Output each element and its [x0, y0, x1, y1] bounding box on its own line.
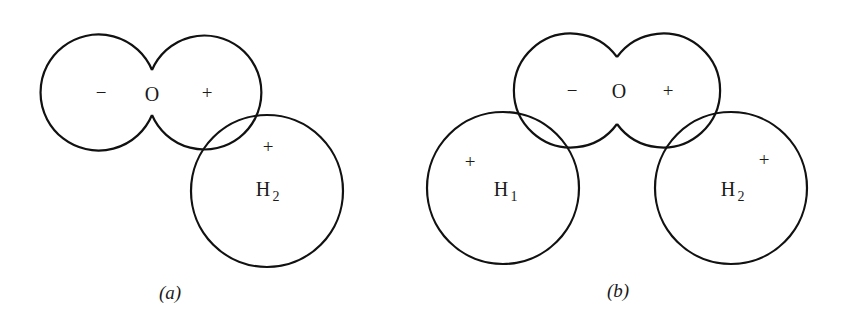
oxygen-label-b: O	[612, 80, 626, 102]
hydrogen-1-subscript-b: 1	[511, 189, 518, 204]
hydrogen-2-subscript-b: 2	[738, 189, 745, 204]
hydrogen-2-label-a: H	[256, 178, 270, 200]
caption-a: (a)	[159, 282, 181, 304]
caption-b: (b)	[607, 280, 629, 302]
hydrogen-2-label-b: H	[721, 178, 735, 200]
hydrogen-2-sign-a: +	[263, 136, 274, 157]
hydrogen-2-sign-b: +	[759, 149, 770, 170]
panel-a: − O + + H 2 (a)	[41, 35, 343, 305]
oxygen-right-lobe-sign-a: +	[202, 82, 213, 103]
orbital-overlap-figure: − O + + H 2 (a) − O + + H 1 + H 2 (b)	[0, 0, 844, 319]
oxygen-left-lobe-sign-b: −	[567, 80, 578, 101]
hydrogen-1-label-b: H	[494, 178, 508, 200]
hydrogen-1-sign-b: +	[465, 151, 476, 172]
oxygen-right-lobe-sign-b: +	[663, 80, 674, 101]
oxygen-left-lobe-sign-a: −	[96, 82, 107, 103]
hydrogen-2-subscript-a: 2	[273, 189, 280, 204]
oxygen-label-a: O	[145, 83, 159, 105]
panel-b: − O + + H 1 + H 2 (b)	[427, 34, 807, 303]
